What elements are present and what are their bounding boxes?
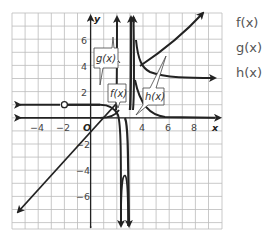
legend-item-h: h(x) [236,60,262,85]
h-label: h(x) [145,91,165,102]
g-line [18,104,116,212]
g-label: g(x) [96,53,116,64]
svg-text:2: 2 [81,87,87,98]
hole-marker [61,102,67,108]
svg-text:4: 4 [81,61,87,72]
legend-item-g: g(x) [236,35,262,60]
f-label: f(x) [110,88,127,99]
svg-text:8: 8 [191,122,197,133]
x-axis-label: x [211,122,219,133]
svg-text:−4: −4 [30,122,44,133]
y-axis-label: y [94,13,101,24]
origin-label: O [83,122,91,133]
svg-text:4: 4 [139,122,145,133]
graph: −4−2 468 642 −2−4−6 O y x g(x) f(x) h(x) [0,0,263,234]
svg-text:6: 6 [81,35,87,46]
tick-labels: −4−2 468 642 −2−4−6 O y x [30,13,219,202]
svg-text:−2: −2 [56,122,70,133]
legend-item-f: f(x) [236,10,262,35]
svg-text:6: 6 [165,122,171,133]
svg-text:−6: −6 [76,191,90,202]
svg-text:−4: −4 [76,165,90,176]
legend: f(x) g(x) h(x) [236,10,262,85]
